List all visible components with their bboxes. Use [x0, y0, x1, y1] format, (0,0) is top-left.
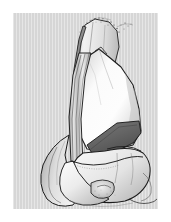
illustration-panel — [13, 13, 158, 209]
figure-page — [0, 0, 171, 222]
knee-anatomy-illustration — [13, 13, 158, 209]
intercondylar-notch — [91, 180, 114, 198]
suture-thread — [129, 199, 157, 204]
tendon-wisp-1 — [117, 24, 133, 27]
